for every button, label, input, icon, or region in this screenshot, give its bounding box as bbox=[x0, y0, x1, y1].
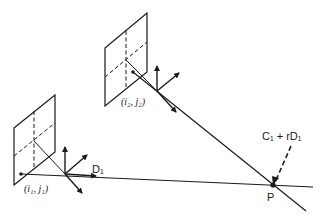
ray-expression-label: C₁ + rD₁ bbox=[262, 131, 302, 142]
point-p-dot bbox=[270, 182, 275, 187]
camera-2-image-plane bbox=[105, 13, 157, 106]
direction-label: D₁ bbox=[92, 164, 104, 175]
triangulation-diagram bbox=[0, 0, 327, 221]
ray-1 bbox=[21, 174, 313, 187]
point-p-label: P bbox=[267, 192, 274, 203]
ray-expression-pointer bbox=[276, 146, 291, 180]
camera-2-axes-icon bbox=[157, 66, 179, 112]
pixel-1-dot bbox=[19, 172, 23, 176]
pixel-1-label: (i₁, j₁) bbox=[24, 184, 48, 194]
camera-1-image-plane bbox=[14, 95, 65, 185]
pixel-2-dot bbox=[131, 70, 135, 74]
pixel-2-label: (i₂, j₂) bbox=[121, 97, 145, 107]
